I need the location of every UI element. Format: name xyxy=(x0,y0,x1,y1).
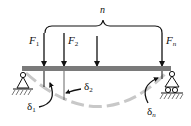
force-label-f1: F1 xyxy=(29,35,39,48)
delta2-arrow xyxy=(66,89,81,93)
force-label-f2: F2 xyxy=(68,35,78,48)
beam-deflection-diagram: n F1 F2 Fn δ1 δ2 δn xyxy=(0,0,191,126)
n-brace xyxy=(45,20,162,33)
deflection-label-delta1: δ1 xyxy=(27,101,36,114)
beam xyxy=(22,66,171,71)
deflection-label-deltan: δn xyxy=(147,106,156,119)
brace-label-n: n xyxy=(100,5,105,15)
deflection-label-delta2: δ2 xyxy=(84,81,93,94)
force-label-fn: Fn xyxy=(166,35,176,48)
